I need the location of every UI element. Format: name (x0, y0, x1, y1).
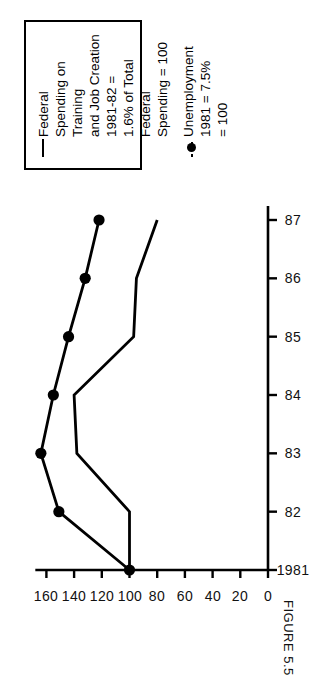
data-point-marker (63, 331, 74, 342)
dot-marker-key-icon (180, 137, 197, 159)
solid-line-key-icon (35, 137, 44, 159)
data-point-marker (93, 214, 104, 225)
year-tick-label: 84 (271, 386, 315, 404)
year-tick-label: 86 (271, 269, 315, 287)
legend-label-unemployment: Unemployment 1981 = 7.5% = 100 (180, 32, 231, 137)
data-point-marker (124, 564, 135, 575)
data-point-marker (53, 506, 64, 517)
year-tick-label: 87 (271, 211, 315, 229)
data-point-marker (48, 389, 59, 400)
data-point-marker (35, 448, 46, 459)
legend-entry-spending: Federal Spending on Training and Job Cre… (35, 32, 171, 159)
year-tick-label: 82 (271, 503, 315, 521)
data-point-marker (80, 273, 91, 284)
value-tick-label: 160 (26, 587, 66, 605)
chart-legend: Federal Spending on Training and Job Cre… (24, 20, 142, 170)
figure-caption: FIGURE 5.5 (281, 600, 296, 676)
legend-entry-unemployment: Unemployment 1981 = 7.5% = 100 (180, 32, 231, 159)
year-tick-label: 83 (271, 444, 315, 462)
year-tick-label: 85 (271, 328, 315, 346)
legend-label-spending: Federal Spending on Training and Job Cre… (35, 32, 171, 137)
year-tick-label: 1981 (271, 561, 315, 579)
